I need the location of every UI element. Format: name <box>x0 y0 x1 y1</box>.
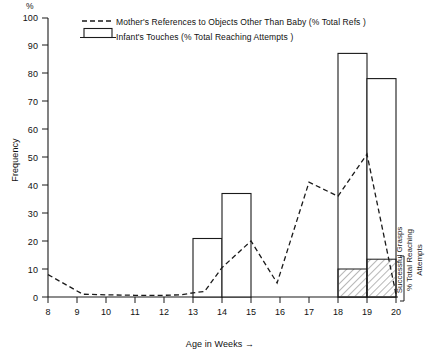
annotation-line-1: Successful Grasps <box>395 205 405 315</box>
y-axis-unit-symbol: % <box>26 1 34 11</box>
y-tick-label-40: 40 <box>12 181 38 191</box>
legend-label-mothers-references: Mother's References to Objects Other Tha… <box>116 17 366 27</box>
y-tick-label-80: 80 <box>12 69 38 79</box>
y-tick-label-10: 10 <box>12 265 38 275</box>
bar-series-infants-touches <box>193 53 396 297</box>
annotation-successful-grasps: Successful Grasps % Total Reaching Attem… <box>395 205 425 315</box>
y-tick-label-70: 70 <box>12 97 38 107</box>
annotation-line-3: Attempts <box>415 205 425 315</box>
legend-label-infants-touches: Infant's Touches (% Total Reaching Attem… <box>116 32 293 42</box>
legend-rect-marker <box>80 29 116 38</box>
x-axis-ticks <box>48 297 396 303</box>
hatched-bar-18-19 <box>338 269 367 297</box>
y-tick-label-30: 30 <box>12 209 38 219</box>
x-tick-label-17: 17 <box>300 307 318 317</box>
y-axis-ticks <box>42 18 48 297</box>
x-tick-label-8: 8 <box>39 307 57 317</box>
y-tick-label-60: 60 <box>12 125 38 135</box>
x-tick-label-13: 13 <box>184 307 202 317</box>
x-tick-label-18: 18 <box>329 307 347 317</box>
x-tick-label-16: 16 <box>271 307 289 317</box>
x-axis-title: Age in Weeks → <box>140 339 300 349</box>
x-tick-label-15: 15 <box>242 307 260 317</box>
y-tick-label-20: 20 <box>12 237 38 247</box>
y-tick-label-90: 90 <box>12 41 38 51</box>
x-tick-label-10: 10 <box>97 307 115 317</box>
y-tick-label-0: 0 <box>12 293 38 303</box>
x-tick-label-19: 19 <box>358 307 376 317</box>
chart-plot-area <box>0 0 426 354</box>
y-tick-label-50: 50 <box>12 153 38 163</box>
x-tick-label-11: 11 <box>126 307 144 317</box>
x-tick-label-9: 9 <box>68 307 86 317</box>
y-tick-label-100: 100 <box>12 13 38 23</box>
hatched-bar-19-20 <box>367 259 396 297</box>
chart-container: % Frequency Age in Weeks → 100 90 80 70 … <box>0 0 426 354</box>
annotation-line-2: % Total Reaching <box>405 205 415 315</box>
x-tick-label-12: 12 <box>155 307 173 317</box>
x-tick-label-14: 14 <box>213 307 231 317</box>
